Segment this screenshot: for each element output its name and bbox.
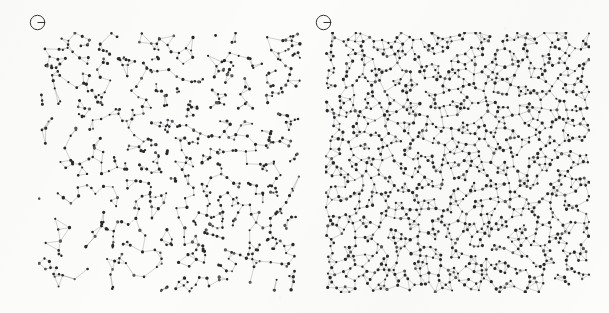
panel-label-a-icon [28, 13, 47, 32]
panel-a-plot [38, 32, 302, 293]
panel-b-plot [325, 32, 590, 293]
figure-root [0, 0, 609, 313]
panel-a [38, 32, 302, 293]
panel-b [325, 32, 590, 293]
panel-label-b-icon [314, 13, 333, 32]
